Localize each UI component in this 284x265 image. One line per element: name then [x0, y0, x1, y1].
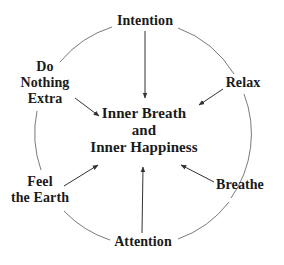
arc-feel-donothing [35, 111, 41, 170]
node-attention: Attention [108, 234, 178, 250]
node-relax: Relax [218, 75, 268, 91]
node-label: Relax [218, 75, 268, 91]
node-intention: Intention [110, 13, 180, 29]
node-breathe: Breathe [210, 177, 270, 193]
arrow-relax [199, 89, 223, 105]
center-label: Inner Happiness [86, 139, 202, 156]
node-label: Do [14, 59, 76, 75]
center-label: and [86, 122, 202, 139]
node-feel-the-earth: Feel the Earth [5, 174, 75, 206]
center-node: Inner Breath and Inner Happiness [86, 105, 202, 156]
node-label: Extra [14, 91, 76, 107]
arrow-attention [142, 167, 143, 233]
arc-attention-feel [64, 211, 110, 240]
node-label: Intention [110, 13, 180, 29]
arc-intention-relax [178, 28, 234, 74]
node-label: Breathe [210, 177, 270, 193]
cycle-diagram: Intention Relax Breathe Attention Feel t… [0, 0, 284, 265]
center-label: Inner Breath [86, 105, 202, 122]
arc-donothing-intention [60, 27, 112, 62]
node-label: Nothing [14, 75, 76, 91]
node-label: Feel [5, 174, 75, 190]
node-label: Attention [108, 234, 178, 250]
node-do-nothing-extra: Do Nothing Extra [14, 59, 76, 107]
arc-breathe-attention [178, 202, 229, 239]
node-label: the Earth [5, 190, 75, 206]
